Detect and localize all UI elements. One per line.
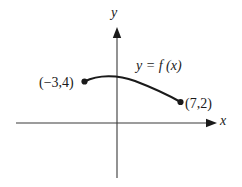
function-equation-label: y = f (x) [136, 59, 182, 73]
y-axis-label: y [111, 6, 117, 20]
endpoint-marker-right [177, 99, 183, 105]
point-label-left: (−3,4) [39, 76, 74, 90]
point-label-right: (7,2) [185, 97, 212, 111]
endpoint-marker-left [81, 78, 87, 84]
y-axis-arrowhead [113, 27, 121, 38]
x-axis-arrowhead [206, 119, 217, 127]
function-curve [85, 76, 181, 102]
function-graph-figure [0, 0, 242, 187]
x-axis-label: x [220, 114, 226, 128]
